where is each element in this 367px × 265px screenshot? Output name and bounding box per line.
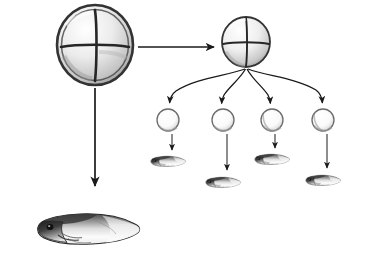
small-tadpole-3: [255, 154, 290, 164]
fan-arrows-to-blastomeres: [170, 69, 323, 104]
small-tadpole-2: [206, 177, 241, 187]
figure-canvas: [0, 0, 367, 265]
blastomere-4: [312, 109, 334, 131]
four-cell-embryo-copy: [222, 17, 270, 67]
diagram-svg: [0, 0, 367, 265]
blastomere-2: [212, 109, 234, 131]
small-tadpole-4: [306, 175, 341, 185]
arrows-blastomere-to-tadpole: [172, 134, 327, 170]
separated-blastomeres: [157, 109, 334, 131]
fan-arrow-1: [170, 69, 245, 103]
fan-arrow-4: [248, 69, 322, 103]
blastomere-1: [157, 109, 179, 131]
small-tadpoles: [151, 154, 341, 187]
small-tadpole-1: [151, 156, 186, 166]
normal-tadpole: [38, 214, 140, 244]
blastomere-3: [261, 109, 283, 131]
four-cell-embryo: [57, 5, 133, 85]
